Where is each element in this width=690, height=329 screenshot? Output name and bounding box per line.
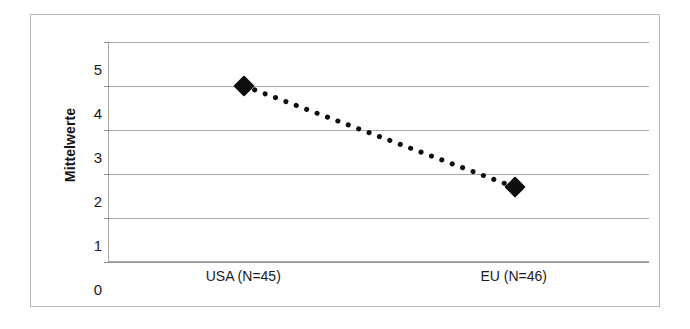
y-tick-label-3: 3 xyxy=(62,150,102,165)
data-point-1 xyxy=(504,177,525,198)
y-tickmark-2 xyxy=(104,174,109,175)
data-series-layer xyxy=(109,42,650,262)
gridline-2 xyxy=(109,174,649,175)
y-tick-label-1: 1 xyxy=(62,238,102,253)
y-tick-label-2: 2 xyxy=(62,194,102,209)
y-tickmark-0 xyxy=(104,262,109,263)
y-tickmark-1 xyxy=(104,218,109,219)
gridline-4 xyxy=(109,86,649,87)
y-tickmark-4 xyxy=(104,86,109,87)
gridline-3 xyxy=(109,130,649,131)
chart-figure: Mittelwerte 012345 USA (N=45)EU (N=46) xyxy=(0,0,690,329)
gridline-1 xyxy=(109,218,649,219)
plot-area xyxy=(108,42,649,262)
x-tick-label-1: EU (N=46) xyxy=(414,268,614,284)
x-tick-label-0: USA (N=45) xyxy=(143,268,343,284)
y-tickmark-5 xyxy=(104,42,109,43)
y-axis-tick-labels: 012345 xyxy=(58,42,102,262)
gridline-5 xyxy=(109,42,649,43)
chart-frame: Mittelwerte 012345 USA (N=45)EU (N=46) xyxy=(30,14,660,307)
x-axis-tick-labels: USA (N=45)EU (N=46) xyxy=(108,268,649,298)
y-tick-label-0: 0 xyxy=(62,282,102,297)
y-tickmark-3 xyxy=(104,130,109,131)
gridline-0 xyxy=(109,262,649,263)
y-tick-label-4: 4 xyxy=(62,106,102,121)
y-tick-label-5: 5 xyxy=(62,62,102,77)
series-line xyxy=(109,42,650,262)
series-segment-0 xyxy=(244,86,515,187)
